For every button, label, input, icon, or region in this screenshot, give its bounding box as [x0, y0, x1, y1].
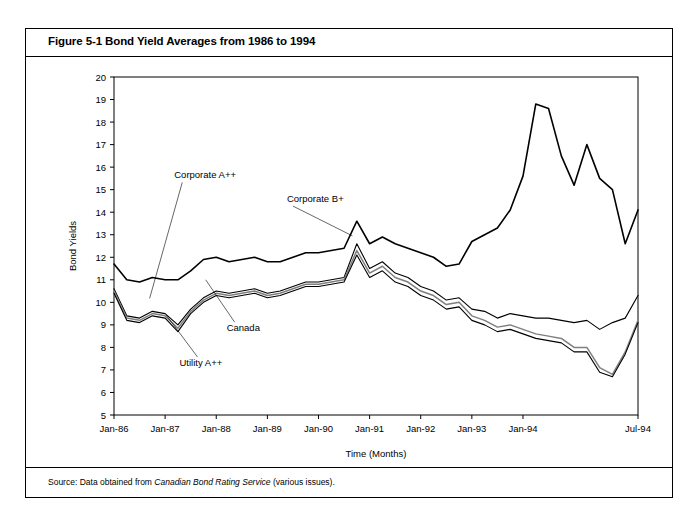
y-tick-label: 19 — [95, 94, 106, 105]
source-italic: Canadian Bond Rating Service — [154, 477, 270, 487]
x-tick-label: Jul-94 — [625, 423, 651, 434]
annotation-leader-line — [166, 315, 197, 357]
figure-title-bar: Figure 5-1 Bond Yield Averages from 1986… — [26, 29, 672, 57]
y-axis-title: Bond Yields — [67, 221, 78, 271]
figure-source-note: Source: Data obtained from Canadian Bond… — [48, 477, 335, 487]
x-axis-title: Time (Months) — [346, 448, 407, 459]
y-tick-label: 13 — [95, 229, 106, 240]
y-tick-label: 20 — [95, 72, 106, 83]
chart-series — [114, 104, 638, 377]
x-tick-label: Jan-91 — [355, 423, 384, 434]
y-tick-label: 6 — [101, 387, 106, 398]
y-tick-label: 14 — [95, 207, 106, 218]
y-tick-label: 11 — [96, 274, 106, 285]
chart-annotations: Corporate A++Corporate B+CanadaUtility A… — [150, 169, 353, 368]
y-tick-label: 12 — [95, 252, 106, 263]
y-tick-label: 9 — [101, 319, 106, 330]
chart-axes: 567891011121314151617181920Jan-86Jan-87J… — [67, 72, 651, 460]
figure-container: Figure 5-1 Bond Yield Averages from 1986… — [25, 28, 673, 498]
series-annotation: Utility A++ — [180, 357, 223, 368]
x-tick-label: Jan-90 — [304, 423, 333, 434]
y-tick-label: 17 — [95, 139, 106, 150]
y-tick-label: 18 — [95, 117, 106, 128]
y-tick-label: 10 — [95, 297, 106, 308]
series-annotation: Canada — [227, 322, 261, 333]
y-tick-label: 8 — [101, 342, 106, 353]
x-tick-label: Jan-89 — [253, 423, 282, 434]
annotation-leader-line — [150, 182, 183, 298]
x-tick-label: Jan-87 — [151, 423, 180, 434]
bond-yield-line-chart: 567891011121314151617181920Jan-86Jan-87J… — [26, 57, 672, 467]
chart-plot-area: 567891011121314151617181920Jan-86Jan-87J… — [26, 57, 672, 467]
x-tick-label: Jan-88 — [202, 423, 231, 434]
y-tick-label: 5 — [101, 410, 106, 421]
source-suffix: (various issues). — [271, 477, 335, 487]
x-tick-label: Jan-94 — [508, 423, 537, 434]
x-tick-label: Jan-86 — [99, 423, 128, 434]
y-tick-label: 16 — [95, 162, 106, 173]
y-tick-label: 15 — [95, 184, 106, 195]
annotation-leader-line — [293, 206, 353, 236]
x-tick-label: Jan-93 — [457, 423, 486, 434]
source-prefix: Source: Data obtained from — [48, 477, 154, 487]
series-line — [114, 104, 638, 282]
x-tick-label: Jan-92 — [406, 423, 435, 434]
annotation-leader-line — [206, 280, 235, 322]
page-title: Figure 5-1 Bond Yield Averages from 1986… — [48, 35, 315, 47]
figure-source-bar: Source: Data obtained from Canadian Bond… — [26, 467, 672, 497]
series-line — [114, 244, 638, 330]
y-tick-label: 7 — [101, 364, 106, 375]
series-annotation: Corporate A++ — [174, 169, 236, 180]
series-annotation: Corporate B+ — [287, 193, 344, 204]
